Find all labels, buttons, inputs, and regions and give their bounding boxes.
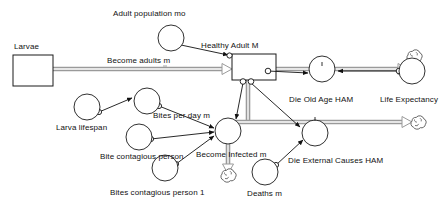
- label-life-expectancy: Life Expectancy: [380, 95, 438, 104]
- cloud-infected-sink: [221, 169, 236, 182]
- link-healthyadult-to-becomeinfected: [236, 83, 243, 119]
- label-bite-contagious-person: Bite contagious person: [100, 152, 184, 161]
- label-deaths-m: Deaths m: [247, 189, 282, 198]
- label-adult-population-mo: Adult population mo: [113, 9, 186, 18]
- label-bites-contagious-person-1: Bites contagious person 1: [110, 188, 205, 197]
- label-become-adults-m: Become adults m: [107, 56, 170, 65]
- label-larvae: Larvae: [14, 42, 39, 51]
- link-bitecontagious-to-becomeinfected: [151, 132, 214, 139]
- label-become-infected-m: Become Infected m: [196, 150, 267, 159]
- variable-deaths-m[interactable]: [252, 159, 278, 185]
- diagram-canvas[interactable]: Adult population mo Larvae Healthy Adult…: [0, 0, 448, 212]
- flow-pipe-die-old-age: [276, 64, 408, 75]
- valve-die-old-age-ham[interactable]: [309, 56, 335, 82]
- label-die-old-age-ham: Die Old Age HAM: [289, 95, 353, 104]
- label-larva-lifespan: Larva lifespan: [56, 123, 107, 132]
- stock-healthy-adult-m[interactable]: [232, 54, 276, 80]
- label-die-external-causes-ham: Die External Causes HAM: [288, 156, 383, 165]
- variable-larva-lifespan[interactable]: [74, 94, 100, 120]
- variable-bite-contagious-person[interactable]: [126, 124, 152, 150]
- label-bites-per-day-m: Bites per day m: [153, 111, 210, 120]
- flow-pipe-become-adults: [52, 64, 232, 75]
- stock-larvae[interactable]: [13, 55, 53, 86]
- diagram-vector-layer: [0, 0, 448, 212]
- variable-adult-population-mo[interactable]: [158, 25, 184, 51]
- variable-life-expectancy[interactable]: [399, 58, 425, 84]
- label-healthy-adult-m: Healthy Adult M: [201, 41, 259, 50]
- valve-become-infected-m[interactable]: [215, 118, 241, 144]
- valve-die-external-causes-ham[interactable]: [302, 120, 328, 146]
- cloud-external-causes-sink: [411, 116, 426, 129]
- link-larvalifespan-to-bitesperday: [99, 98, 132, 112]
